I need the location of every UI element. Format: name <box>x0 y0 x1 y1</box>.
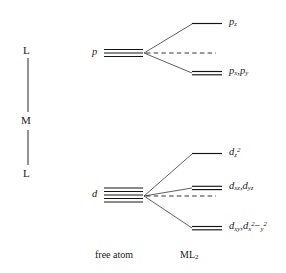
orbital-splitting-diagram: L M L p d pz px,py dz2 dxz,dyz dxy,dx2−y… <box>0 0 286 273</box>
level-label-pz: pz <box>229 17 237 28</box>
axis-label-ligand-top: L <box>23 45 30 56</box>
d-correlation-to-dz2 <box>144 154 192 196</box>
d-correlation-lines <box>144 154 192 228</box>
level-line-dxy-dx2y2-group <box>192 227 222 230</box>
caption-ml2: ML2 <box>180 250 199 261</box>
free-atom-d-level-group <box>104 188 143 202</box>
d-correlation-to-dxz-dyz <box>144 188 192 196</box>
caption-free-atom: free atom <box>95 250 133 260</box>
d-correlation-to-dxy-dx2y2 <box>144 196 192 228</box>
dz2-sup: 2 <box>237 146 240 153</box>
p-correlation-lines <box>144 24 192 73</box>
free-atom-d-label: d <box>92 189 97 200</box>
ml2-sub: 2 <box>195 253 199 261</box>
ml2-main: ML <box>180 249 195 260</box>
level-label-dxz-dyz: dxz,dyz <box>229 181 253 192</box>
axis-label-ligand-bottom: L <box>23 168 30 179</box>
level-line-dxz-dyz-group <box>192 186 222 189</box>
axis-label-metal: M <box>21 115 31 126</box>
py-sub: y <box>245 69 248 76</box>
p-correlation-to-pz <box>144 24 192 53</box>
level-label-dz2: dz2 <box>229 147 240 158</box>
p-correlation-to-pxpy <box>144 53 192 73</box>
dyz-sub: yz <box>248 184 254 191</box>
level-label-px-py: px,py <box>229 66 248 77</box>
free-atom-p-label: p <box>92 47 97 58</box>
level-line-pxpy-group <box>192 72 222 75</box>
free-atom-p-level-group <box>104 50 143 57</box>
level-label-dxy-dx2y2: dxy,dx2−y2 <box>229 221 267 232</box>
pz-sub: z <box>234 20 237 27</box>
dx2y2-sup-2b: 2 <box>264 220 267 227</box>
